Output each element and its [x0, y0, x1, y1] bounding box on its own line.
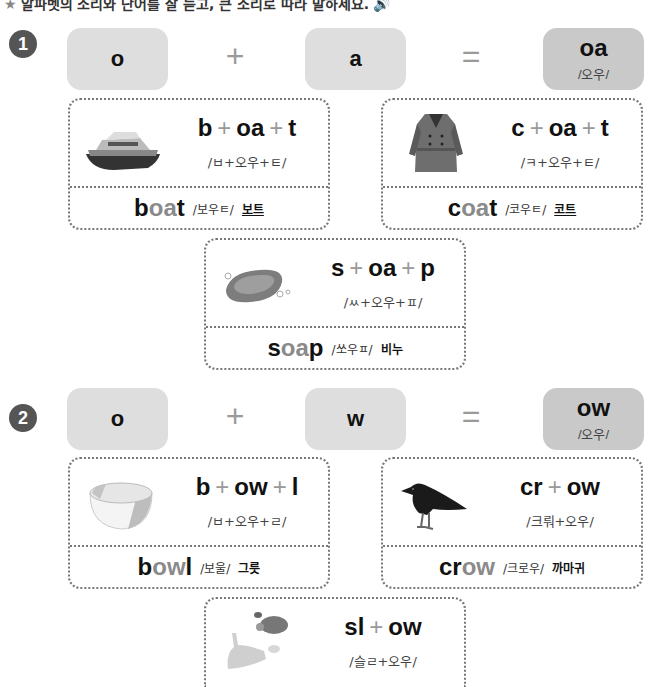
result-pronunciation: /오우/: [578, 424, 609, 443]
word-meaning: 그릇: [238, 559, 260, 576]
letter: o: [111, 46, 124, 72]
word-card-slow[interactable]: sl+ow /슬ㄹ+오우/: [204, 597, 466, 687]
word-pronunciation: /보우ㅌ/: [193, 200, 234, 217]
sound-pronunciation: /ㅆ+오우+ㅍ/: [302, 292, 464, 311]
sound-pronunciation: /ㅂ+오우+ㄹ/: [166, 511, 328, 530]
result-letters: ow: [577, 396, 610, 420]
word-pronunciation: /쏘우ㅍ/: [331, 340, 372, 357]
spelling-formula: b+oa+t: [166, 114, 328, 142]
spelling-formula: c+oa+t: [479, 114, 641, 142]
letter-tile-a[interactable]: a: [305, 28, 406, 90]
soap-icon: [220, 250, 298, 316]
result-pronunciation: /오우/: [578, 64, 609, 83]
section-number-1: 1: [9, 30, 37, 58]
letter: a: [349, 46, 361, 72]
equals-sign: =: [456, 38, 486, 75]
word-card-bowl[interactable]: b+ow+l /ㅂ+오우+ㄹ/ bowl /보울/ 그릇: [68, 457, 330, 589]
letter: o: [111, 406, 124, 432]
boat-icon: [84, 110, 162, 176]
word-meaning: 보트: [242, 200, 264, 217]
star-icon: ★: [4, 0, 17, 12]
plus-sign: +: [220, 38, 250, 75]
word-pronunciation: /보울/: [200, 559, 230, 576]
word-card-boat[interactable]: b+oa+t /ㅂ+오우+ㅌ/ boat /보우ㅌ/ 보트: [68, 98, 330, 230]
word: boat: [134, 194, 185, 222]
word: bowl: [138, 553, 193, 581]
sound-pronunciation: /슬ㄹ+오우/: [302, 651, 464, 670]
sound-pronunciation: /ㅂ+오우+ㅌ/: [166, 152, 328, 171]
coat-icon: [397, 110, 475, 176]
word-card-crow[interactable]: cr+ow /크뤄+오우/ crow /크로우/ 까마귀: [381, 457, 643, 589]
word-card-coat[interactable]: c+oa+t /ㅋ+오우+ㅌ/ coat /코우ㅌ/ 코트: [381, 98, 643, 230]
spelling-formula: b+ow+l: [166, 473, 328, 501]
word-meaning: 코트: [554, 200, 576, 217]
spelling-formula: sl+ow: [302, 613, 464, 641]
section-number-2: 2: [9, 404, 37, 432]
word: crow: [439, 553, 495, 581]
result-tile-ow[interactable]: ow /오우/: [543, 388, 644, 450]
instruction: ★알파벳의 소리와 단어를 잘 듣고, 큰 소리로 따라 말하세요.🔊: [4, 0, 390, 13]
word-meaning: 비누: [381, 340, 403, 357]
word-card-soap[interactable]: s+oa+p /ㅆ+오우+ㅍ/ soap /쏘우ㅍ/ 비누: [204, 238, 466, 370]
equals-sign: =: [456, 398, 486, 435]
instruction-text: 알파벳의 소리와 단어를 잘 듣고, 큰 소리로 따라 말하세요.: [21, 0, 370, 12]
letter-tile-w[interactable]: w: [305, 388, 406, 450]
word-pronunciation: /크로우/: [503, 559, 544, 576]
letter-tile-o[interactable]: o: [67, 388, 168, 450]
word-pronunciation: /코우ㅌ/: [505, 200, 546, 217]
spelling-formula: cr+ow: [479, 473, 641, 501]
word-meaning: 까마귀: [552, 559, 585, 576]
result-tile-oa[interactable]: oa /오우/: [543, 28, 644, 90]
word: soap: [267, 334, 323, 362]
result-letters: oa: [579, 36, 607, 60]
plus-sign: +: [220, 398, 250, 435]
letter: w: [347, 406, 364, 432]
word: coat: [448, 194, 497, 222]
spelling-formula: s+oa+p: [302, 254, 464, 282]
speaker-icon[interactable]: 🔊: [373, 0, 390, 12]
bowl-icon: [84, 469, 162, 535]
sound-pronunciation: /ㅋ+오우+ㅌ/: [479, 152, 641, 171]
sound-pronunciation: /크뤄+오우/: [479, 511, 641, 530]
crow-icon: [397, 469, 475, 535]
letter-tile-o[interactable]: o: [67, 28, 168, 90]
rabbit-turtle-icon: [220, 609, 298, 675]
